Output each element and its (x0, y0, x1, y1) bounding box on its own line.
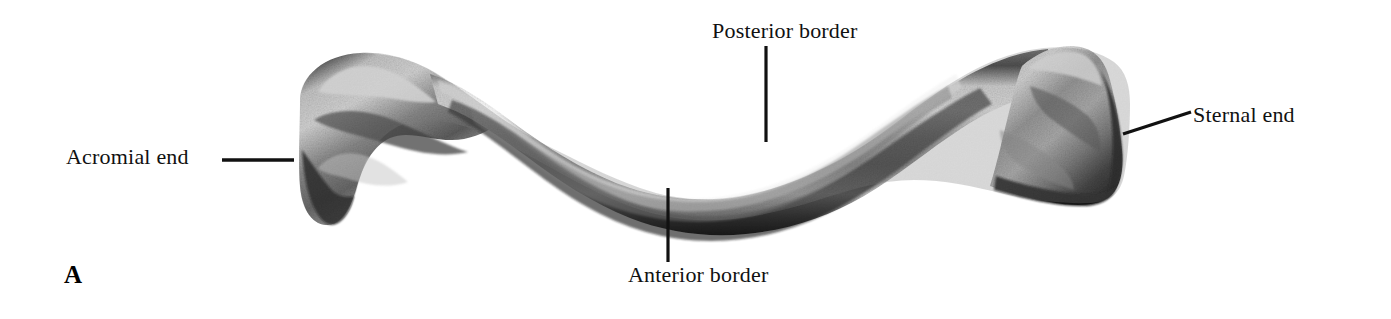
bone-body (290, 40, 1140, 241)
label-sternal-end: Sternal end (1193, 104, 1295, 126)
leader-line-sternal-end (1123, 112, 1191, 134)
label-posterior-border: Posterior border (712, 20, 858, 42)
anatomy-figure-panel: Acromial end Posterior border Anterior b… (0, 0, 1391, 319)
label-anterior-border: Anterior border (628, 264, 768, 286)
label-acromial-end: Acromial end (66, 146, 189, 168)
panel-letter: A (64, 262, 82, 287)
